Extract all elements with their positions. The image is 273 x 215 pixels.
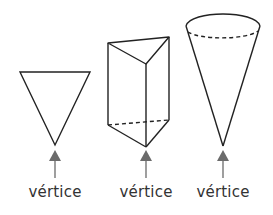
cone-shape [186, 14, 260, 146]
vertex-label-cone: vértice [183, 183, 263, 201]
vertex-arrow-triangle [49, 150, 61, 178]
vertex-arrow-cone [217, 150, 229, 178]
vertex-label-triangle: vértice [15, 183, 95, 201]
vertex-arrow-prism [140, 150, 152, 178]
triangular-prism-shape [108, 37, 169, 147]
vertex-label-prism: vértice [106, 183, 186, 201]
triangle-shape [20, 72, 90, 145]
